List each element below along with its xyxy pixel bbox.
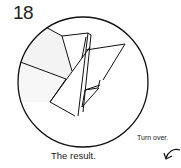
step-caption: The result. [51,150,96,161]
right-flap [86,44,125,80]
turn-over-instruction: Turn over. [137,134,168,141]
turn-over-arrow-icon [164,149,180,159]
flap-top [62,33,91,36]
origami-diagram [0,0,181,168]
small-flap [82,80,100,107]
diagram-content [10,20,125,116]
